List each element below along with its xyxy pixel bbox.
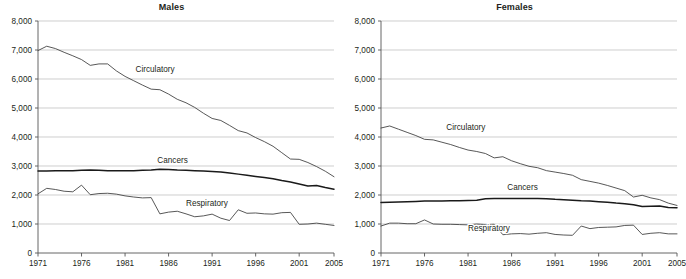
x-axis-tick-label: 1971 (372, 259, 391, 268)
x-axis-tick-label: 1981 (459, 259, 478, 268)
series-line-cancers (381, 198, 677, 207)
x-axis-tick-label: 1986 (159, 259, 178, 268)
y-axis-tick-label: 7,000 (355, 46, 376, 55)
x-axis-tick-label: 2005 (668, 259, 686, 268)
y-axis-tick-label: 4,000 (355, 133, 376, 142)
y-axis-tick-label: 2,000 (12, 191, 33, 200)
x-axis-tick-label: 1976 (72, 259, 91, 268)
x-axis-tick-label: 1991 (546, 259, 565, 268)
chart-svg-females: 01,0002,0003,0004,0005,0006,0007,0008,00… (343, 0, 686, 279)
series-label-circulatory: Circulatory (136, 65, 176, 74)
y-axis-tick-label: 8,000 (355, 17, 376, 26)
y-axis-tick-label: 2,000 (355, 191, 376, 200)
x-axis-tick-label: 2001 (290, 259, 309, 268)
y-axis-tick-label: 0 (27, 249, 32, 258)
x-axis-tick-label: 1971 (29, 259, 48, 268)
x-axis-tick-label: 1976 (415, 259, 434, 268)
chart-panel-males: Males 01,0002,0003,0004,0005,0006,0007,0… (0, 0, 343, 279)
x-axis-tick-label: 1996 (247, 259, 266, 268)
chart-svg-males: 01,0002,0003,0004,0005,0006,0007,0008,00… (0, 0, 343, 279)
y-axis-tick-label: 3,000 (355, 162, 376, 171)
y-axis-tick-label: 0 (370, 249, 375, 258)
y-axis-tick-label: 5,000 (12, 104, 33, 113)
x-axis-tick-label: 2005 (325, 259, 343, 268)
series-label-cancers: Cancers (157, 156, 188, 165)
y-axis-tick-label: 1,000 (355, 220, 376, 229)
y-axis-tick-label: 3,000 (12, 162, 33, 171)
series-label-respiratory: Respiratory (468, 224, 511, 233)
x-axis-tick-label: 1981 (116, 259, 135, 268)
y-axis-tick-label: 8,000 (12, 17, 33, 26)
y-axis-tick-label: 6,000 (12, 75, 33, 84)
series-line-respiratory (381, 220, 677, 235)
x-axis-tick-label: 1986 (502, 259, 521, 268)
series-label-respiratory: Respiratory (186, 199, 229, 208)
x-axis-tick-label: 1996 (590, 259, 609, 268)
y-axis-tick-label: 6,000 (355, 75, 376, 84)
y-axis-tick-label: 7,000 (12, 46, 33, 55)
x-axis-tick-label: 1991 (203, 259, 222, 268)
series-label-circulatory: Circulatory (446, 123, 486, 132)
y-axis-tick-label: 1,000 (12, 220, 33, 229)
x-axis-tick-label: 2001 (633, 259, 652, 268)
dual-line-chart-figure: Males 01,0002,0003,0004,0005,0006,0007,0… (0, 0, 686, 279)
y-axis-tick-label: 4,000 (12, 133, 33, 142)
series-label-cancers: Cancers (507, 183, 538, 192)
chart-panel-females: Females 01,0002,0003,0004,0005,0006,0007… (343, 0, 686, 279)
y-axis-tick-label: 5,000 (355, 104, 376, 113)
